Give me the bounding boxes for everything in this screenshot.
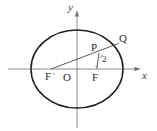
label-point-p: P	[91, 41, 97, 53]
figure-canvas: y x F ′ O F P Q 2	[0, 0, 157, 131]
chord-focus-left-to-q	[51, 44, 119, 70]
segment-p-to-focus-right	[97, 53, 99, 69]
x-axis-label: x	[141, 69, 147, 81]
x-axis	[8, 67, 140, 71]
label-point-q: Q	[119, 32, 127, 44]
label-focus-left: F	[45, 70, 51, 82]
ellipse-figure: y x F ′ O F P Q 2	[0, 0, 157, 131]
label-focus-right: F	[92, 71, 98, 83]
label-origin: O	[63, 71, 71, 83]
y-axis-label: y	[67, 1, 73, 13]
label-angle-value: 2	[102, 54, 107, 64]
label-focus-left-prime: ′	[53, 72, 55, 81]
y-axis-arrow-icon	[75, 11, 79, 16]
x-axis-arrow-icon	[135, 67, 141, 71]
